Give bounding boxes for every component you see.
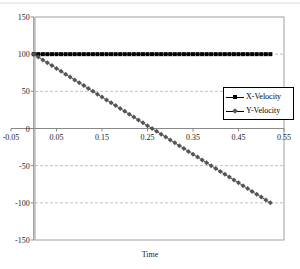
x-tick-label: 0.15 [95, 133, 109, 142]
diamond-marker-icon [226, 105, 244, 117]
y-tick-label: 100 [18, 50, 30, 59]
legend: X-Velocity Y-Velocity [223, 87, 294, 120]
x-tick-label: 0.45 [232, 133, 246, 142]
y-tick-label: -50 [19, 162, 30, 171]
x-tick-label: -0.05 [3, 133, 20, 142]
x-tick-label: 0.55 [277, 133, 291, 142]
x-tick-label: 0.35 [186, 133, 200, 142]
x-axis-title: Time [0, 250, 300, 259]
legend-label: X-Velocity [246, 92, 281, 101]
y-tick-label: 0 [26, 125, 30, 134]
square-marker-icon [226, 91, 244, 103]
legend-item-x-velocity: X-Velocity [226, 91, 281, 103]
y-tick-label: -150 [15, 236, 30, 245]
y-tick-label: 50 [22, 87, 30, 96]
legend-item-y-velocity: Y-Velocity [226, 105, 280, 117]
x-tick-label: 0.05 [50, 133, 64, 142]
x-tick-label: 0.25 [141, 133, 155, 142]
legend-label: Y-Velocity [246, 106, 280, 115]
y-tick-label: -100 [15, 199, 30, 208]
chart-canvas: -150-100-50050100150-0.050.050.150.250.3… [0, 0, 300, 269]
y-tick-label: 150 [18, 13, 30, 22]
